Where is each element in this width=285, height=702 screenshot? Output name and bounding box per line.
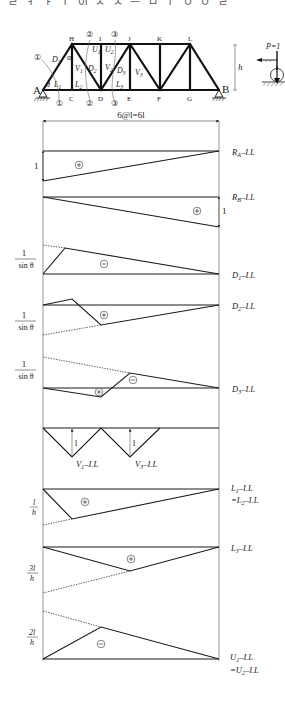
node-label-B: B — [222, 83, 229, 95]
il-line — [43, 197, 219, 227]
truss-member — [130, 44, 160, 90]
il-line — [43, 627, 219, 659]
truss-member — [160, 44, 190, 90]
svg-text:1: 1 — [22, 310, 27, 320]
member-label: L3 — [115, 80, 123, 90]
section-mark: ② — [86, 30, 93, 39]
section-mark: ① — [56, 99, 63, 108]
il-r-b-i-l — [43, 197, 219, 227]
truss-members — [43, 44, 219, 90]
il-line — [43, 248, 219, 274]
svg-text:sin θ: sin θ — [18, 323, 33, 332]
l3-ordinate: 3l h — [27, 564, 38, 583]
node-label-F: F — [157, 95, 161, 103]
caption-d2: D2–I.L — [231, 301, 255, 312]
influence-line-diagram: A C D E F G B H I J K L D1αV1D2U1U2V2D3V… — [0, 0, 285, 702]
section-mark: ③ — [111, 99, 118, 108]
height-label: h — [238, 62, 243, 72]
ra-ordinate: 1 — [34, 161, 39, 171]
caption-d3: D3–I.L — [231, 384, 255, 395]
il-line — [43, 489, 219, 519]
caption-ra: RA–I.L — [231, 147, 255, 158]
il-d1-i-l — [43, 245, 219, 274]
svg-text:1: 1 — [22, 359, 27, 369]
node-label-D: D — [98, 95, 103, 103]
caption-u1: U1–I.L — [230, 652, 253, 663]
member-label: U1 — [92, 45, 101, 55]
node-label-G: G — [187, 95, 192, 103]
height-dimension: h — [233, 45, 243, 90]
node-label-I: I — [99, 35, 102, 43]
member-label: D3 — [116, 66, 126, 76]
il-l3-i-l — [43, 547, 219, 593]
il-v-i-l — [43, 428, 219, 457]
caption-l3: L3–I.L — [230, 543, 253, 554]
il-line — [43, 299, 219, 325]
member-label: θ — [46, 80, 50, 89]
section-mark: ② — [86, 99, 93, 108]
svg-text:sin θ: sin θ — [18, 261, 33, 270]
span-dimension: 6@l=6l — [43, 110, 219, 121]
il-line — [43, 428, 160, 457]
section-mark: ③ — [111, 30, 118, 39]
il-dotted-extension — [43, 571, 130, 593]
il-l1-i-l-l2-i-l — [43, 489, 219, 525]
node-label-H: H — [69, 35, 74, 43]
il-r-a-i-l — [43, 151, 219, 181]
caption-l2: =L2–I.L — [231, 495, 259, 506]
d3-ordinate: 1 sin θ — [15, 359, 36, 381]
node-label-A: A — [33, 84, 41, 96]
svg-text:3l: 3l — [28, 564, 36, 573]
d2-ordinate: 1 sin θ — [15, 310, 36, 332]
section-mark: ① — [34, 53, 41, 62]
left-ordinate-labels: 1 1 1 sin θ 1 sin θ 1 sin θ l h 3l h 2l — [15, 161, 227, 647]
v1-ordinate: 1 — [74, 439, 78, 448]
member-label: V3 — [135, 68, 143, 78]
node-label-L: L — [188, 35, 192, 43]
member-label: V1 — [75, 64, 83, 74]
member-label: L2 — [74, 80, 82, 90]
il-dotted-extension — [43, 611, 101, 627]
node-label-E: E — [127, 95, 131, 103]
node-label-K: K — [157, 35, 162, 43]
il-dotted-extension — [43, 245, 65, 248]
caption-l1: L1–I.L — [230, 483, 253, 494]
caption-v3: V3–I.L — [135, 459, 157, 470]
il-u1-i-l-u2-i-l — [43, 611, 219, 659]
svg-text:2l: 2l — [29, 628, 36, 637]
v3-ordinate: 1 — [132, 439, 136, 448]
member-label: V2 — [105, 63, 113, 73]
il-captions: RA–I.L RB–I.L D1–I.L D2–I.L D3–I.L V1–I.… — [76, 147, 259, 676]
il-dotted-extension — [43, 325, 101, 335]
svg-text:h: h — [30, 638, 34, 647]
load-label: P=1 — [265, 42, 280, 51]
svg-text:h: h — [32, 508, 36, 517]
il-d3-i-l — [43, 357, 219, 397]
il-line — [43, 151, 219, 181]
l1-ordinate: l h — [30, 498, 38, 517]
member-label: D2 — [87, 64, 97, 74]
u1-ordinate: 2l h — [27, 628, 38, 647]
caption-rb: RB–I.L — [231, 192, 255, 203]
il-dotted-extension — [43, 519, 72, 525]
span-label: 6@l=6l — [117, 110, 145, 120]
truss-member — [190, 44, 219, 90]
moving-load-icon: P=1 — [256, 42, 285, 86]
caption-u2: =U2–I.L — [230, 665, 259, 676]
node-label-C: C — [69, 95, 74, 103]
svg-text:1: 1 — [22, 248, 27, 258]
caption-d1: D1–I.L — [231, 270, 255, 281]
truss-diagram: A C D E F G B H I J K L D1αV1D2U1U2V2D3V… — [33, 30, 285, 108]
member-label: D1 — [51, 55, 61, 65]
rb-ordinate: 1 — [222, 206, 227, 216]
svg-text:sin θ: sin θ — [18, 372, 33, 381]
node-label-J: J — [128, 35, 131, 43]
caption-v1: V1–I.L — [76, 459, 98, 470]
il-d2-i-l — [43, 299, 219, 335]
svg-text:h: h — [30, 574, 34, 583]
member-labels: D1αV1D2U1U2V2D3V3θL1L2L3 — [46, 45, 143, 90]
member-label: U2 — [105, 45, 114, 55]
svg-text:l: l — [33, 498, 36, 507]
influence-lines — [43, 151, 219, 659]
d1-ordinate: 1 sin θ — [15, 248, 36, 270]
